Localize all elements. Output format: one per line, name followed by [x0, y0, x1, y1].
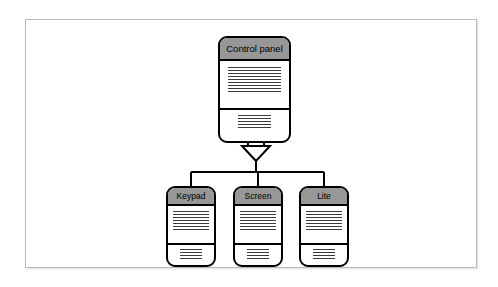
class-compartment-attributes [235, 206, 281, 243]
text-line [228, 85, 281, 86]
text-line [240, 211, 276, 212]
text-line [228, 76, 281, 77]
text-line [238, 115, 271, 116]
text-line [173, 226, 209, 227]
class-node-title-lite: Lite [301, 188, 347, 206]
class-compartment-operations [235, 243, 281, 267]
text-line [240, 217, 276, 218]
text-line [313, 258, 335, 259]
text-line [173, 220, 209, 221]
text-line [247, 252, 269, 253]
text-line [247, 258, 269, 259]
text-line [238, 127, 271, 128]
text-line [173, 211, 209, 212]
text-line [313, 255, 335, 256]
text-line [313, 249, 335, 250]
class-node-control-panel[interactable]: Control panel [218, 36, 291, 143]
text-line [313, 252, 335, 253]
text-line [306, 217, 342, 218]
diagram-canvas: Control panel Keypad [0, 0, 498, 287]
class-node-screen[interactable]: Screen [233, 186, 283, 267]
text-line [173, 217, 209, 218]
class-compartment-attributes [301, 206, 347, 243]
text-line [173, 214, 209, 215]
text-line [240, 226, 276, 227]
text-line [240, 214, 276, 215]
text-line [240, 229, 276, 230]
text-line [306, 226, 342, 227]
text-line [306, 223, 342, 224]
text-line [228, 91, 281, 92]
text-line [306, 211, 342, 212]
text-line [238, 124, 271, 125]
text-line [238, 118, 271, 119]
class-compartment-attributes [220, 61, 289, 108]
text-line [247, 249, 269, 250]
text-line [306, 214, 342, 215]
text-line [240, 220, 276, 221]
text-line [228, 88, 281, 89]
class-node-keypad[interactable]: Keypad [166, 186, 216, 267]
class-node-title-screen: Screen [235, 188, 281, 206]
text-line [173, 229, 209, 230]
text-line [228, 79, 281, 80]
text-line [173, 223, 209, 224]
text-line [228, 73, 281, 74]
class-compartment-operations [168, 243, 214, 267]
text-line [240, 223, 276, 224]
class-node-lite[interactable]: Lite [299, 186, 349, 267]
class-compartment-attributes [168, 206, 214, 243]
class-node-title-control-panel: Control panel [220, 38, 289, 61]
text-line [180, 252, 202, 253]
class-node-title-keypad: Keypad [168, 188, 214, 206]
text-line [228, 70, 281, 71]
class-compartment-operations [301, 243, 347, 267]
text-line [180, 255, 202, 256]
text-line [228, 82, 281, 83]
text-line [306, 220, 342, 221]
text-line [247, 255, 269, 256]
text-line [180, 258, 202, 259]
text-line [306, 229, 342, 230]
class-compartment-operations [220, 108, 289, 141]
text-line [238, 121, 271, 122]
text-line [228, 67, 281, 68]
text-line [180, 249, 202, 250]
